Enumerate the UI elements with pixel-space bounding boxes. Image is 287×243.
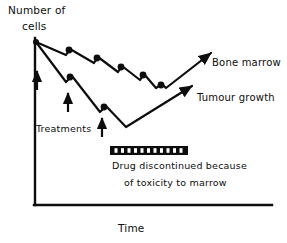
drug-note-line1: Drug discontinued because (112, 160, 247, 171)
x-axis-label: Time (118, 222, 145, 234)
drug-note-line2: of toxicity to marrow (124, 177, 227, 188)
bone-marrow-peak-marker (158, 82, 165, 89)
series-label-tumour-growth: Tumour growth (197, 92, 275, 103)
y-axis-label-line2: cells (22, 20, 47, 32)
tumour-growth-curve (36, 42, 192, 127)
bone-marrow-peak-marker (118, 64, 125, 71)
tumour-peak-marker (101, 104, 108, 111)
tumour-peak-marker (67, 74, 74, 81)
series-label-bone-marrow: Bone marrow (212, 57, 281, 68)
y-axis-label-line1: Number of (8, 4, 65, 16)
drug-discontinued-bar (110, 146, 188, 155)
curve-origin-marker (33, 39, 39, 45)
treatments-label: Treatments (36, 123, 91, 134)
chemotherapy-cell-count-diagram: Number of cells Time Bone marrow Tumour … (0, 0, 287, 243)
bone-marrow-peak-marker (66, 47, 73, 54)
bone-marrow-peak-marker (140, 72, 147, 79)
diagram-canvas (0, 0, 287, 243)
bone-marrow-peak-marker (94, 55, 101, 62)
